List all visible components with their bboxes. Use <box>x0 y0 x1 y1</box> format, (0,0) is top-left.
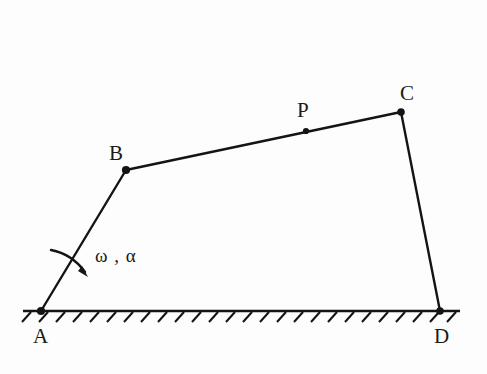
vertex-label-c: C <box>400 83 414 104</box>
vertex-label-a: A <box>33 326 48 347</box>
mechanism-figure: A B P C D ω , α <box>0 0 487 374</box>
link-ab <box>41 170 126 311</box>
joint-b-dot <box>122 166 130 174</box>
vertex-label-d: D <box>434 326 449 347</box>
link-bc <box>126 112 401 170</box>
point-p-dot <box>303 128 309 134</box>
ground-hatching <box>22 312 456 322</box>
linkage-drawing-canvas <box>0 0 487 374</box>
vertex-label-p: P <box>297 100 309 121</box>
joint-d-dot <box>436 307 444 315</box>
link-cd <box>401 112 440 311</box>
joint-a-dot <box>37 307 45 315</box>
omega-alpha-annotation: ω , α <box>95 246 137 265</box>
vertex-label-b: B <box>109 143 123 164</box>
joint-c-dot <box>397 108 405 116</box>
